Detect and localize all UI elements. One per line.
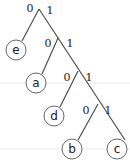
edge-label-0: 0 [64, 71, 71, 84]
edge-label-0: 0 [45, 37, 52, 50]
leaf-node-b: b [62, 139, 82, 159]
leaf-node-e: e [6, 40, 26, 60]
tree-diagram: 0 1 0 1 0 1 0 1 e a d b c [0, 0, 130, 168]
leaf-node-c: c [107, 139, 127, 159]
edge-label-1: 1 [47, 4, 54, 17]
edge-label-0: 0 [27, 2, 34, 15]
node-label: e [12, 43, 19, 57]
node-label: c [114, 142, 121, 156]
node-label: d [50, 109, 58, 123]
edge-label-1: 1 [67, 37, 74, 50]
edge-label-1: 1 [86, 71, 93, 84]
node-label: a [32, 76, 39, 90]
edge-label-1: 1 [105, 104, 112, 117]
leaf-node-d: d [44, 106, 64, 126]
leaf-node-a: a [26, 73, 46, 93]
node-label: b [68, 142, 76, 156]
tree-svg: 0 1 0 1 0 1 0 1 e a d b c [0, 0, 130, 168]
edge-label-0: 0 [83, 104, 90, 117]
